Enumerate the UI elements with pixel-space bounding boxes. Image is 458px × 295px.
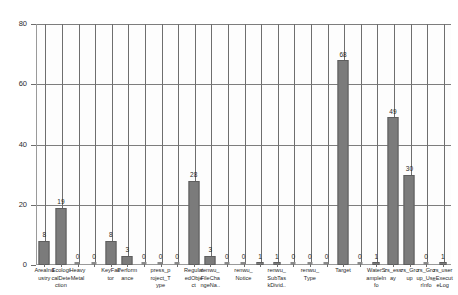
bar-value-label: 0 (242, 254, 246, 261)
bar[interactable] (39, 241, 50, 265)
bar-slot[interactable]: 49 (385, 24, 402, 265)
y-axis: 020406080 (0, 24, 32, 265)
bar-value-label: 3 (125, 247, 129, 254)
bar-value-label: 0 (76, 254, 80, 261)
x-tick-label: press_p roject_T ype (143, 267, 178, 290)
bar-slot[interactable]: 1 (268, 24, 285, 265)
x-tick-label: renwu_ Type (292, 267, 327, 282)
bar-slot[interactable]: 0 (418, 24, 435, 265)
x-tick-label: zs_user _Execut eLog (425, 267, 458, 290)
bar-value-label: 0 (325, 254, 329, 261)
bar[interactable] (404, 175, 415, 265)
y-tick-mark (31, 265, 36, 266)
bar-value-label: 68 (339, 52, 346, 59)
bar-value-label: 30 (406, 166, 413, 173)
bar-value-label: 8 (42, 232, 46, 239)
x-tick-label: renwu_ Notice (226, 267, 261, 282)
y-tick-label: 80 (19, 20, 27, 28)
bar-value-label: 0 (92, 254, 96, 261)
bar-slot[interactable]: 30 (401, 24, 418, 265)
x-tick-label: renwu_ FileCha ngeNa.. (193, 267, 228, 290)
x-tick-label: Heavy Metal (60, 267, 95, 282)
y-tick-label: 20 (19, 201, 27, 209)
bar-slot[interactable]: 0 (169, 24, 186, 265)
bar-slot[interactable]: 1 (368, 24, 385, 265)
bar-slot[interactable]: 8 (102, 24, 119, 265)
bars-layer: 819008300028300110006801493001 (36, 24, 451, 265)
bar-slot[interactable]: 1 (434, 24, 451, 265)
bar-value-label: 1 (374, 254, 378, 261)
bar[interactable] (188, 181, 199, 265)
bar-slot[interactable]: 28 (185, 24, 202, 265)
bar-slot[interactable]: 0 (69, 24, 86, 265)
bar-slot[interactable]: 0 (285, 24, 302, 265)
bar-value-label: 8 (109, 232, 113, 239)
bar-value-label: 0 (142, 254, 146, 261)
y-tick-label: 60 (19, 81, 27, 89)
bar-slot[interactable]: 0 (351, 24, 368, 265)
bar-value-label: 0 (424, 254, 428, 261)
bar-slot[interactable]: 0 (235, 24, 252, 265)
x-axis: AreaInd ustryEcologi calDete ctionHeavy … (36, 267, 451, 295)
bar-value-label: 28 (190, 172, 197, 179)
bar[interactable] (338, 60, 349, 265)
bar-value-label: 0 (291, 254, 295, 261)
y-tick-label: 40 (19, 141, 27, 149)
bar-slot[interactable]: 0 (219, 24, 236, 265)
x-tick-label: Perform ance (110, 267, 145, 282)
bar-slot[interactable]: 0 (302, 24, 319, 265)
bar[interactable] (387, 117, 398, 265)
bar-value-label: 0 (358, 254, 362, 261)
bar-slot[interactable]: 0 (136, 24, 153, 265)
bar-slot[interactable]: 0 (318, 24, 335, 265)
bar-chart: 020406080 819008300028300110006801493001… (0, 0, 458, 295)
bar-slot[interactable]: 68 (335, 24, 352, 265)
x-tick-label: renwu_ SubTas kDivid.. (259, 267, 294, 290)
bar-slot[interactable]: 3 (202, 24, 219, 265)
bar-slot[interactable]: 0 (86, 24, 103, 265)
bar-value-label: 49 (389, 109, 396, 116)
bar-slot[interactable]: 0 (152, 24, 169, 265)
bar-slot[interactable]: 19 (53, 24, 70, 265)
bar-slot[interactable]: 1 (252, 24, 269, 265)
bar-value-label: 0 (225, 254, 229, 261)
x-tick-label: Target (326, 267, 361, 275)
bar-value-label: 1 (441, 254, 445, 261)
bar-value-label: 19 (57, 199, 64, 206)
bar-slot[interactable]: 8 (36, 24, 53, 265)
bar[interactable] (55, 208, 66, 265)
bar-value-label: 0 (159, 254, 163, 261)
bar-value-label: 0 (308, 254, 312, 261)
bar-slot[interactable]: 3 (119, 24, 136, 265)
bar-value-label: 0 (175, 254, 179, 261)
bar-value-label: 1 (258, 254, 262, 261)
bar[interactable] (105, 241, 116, 265)
bar-value-label: 3 (208, 247, 212, 254)
bar-value-label: 1 (275, 254, 279, 261)
